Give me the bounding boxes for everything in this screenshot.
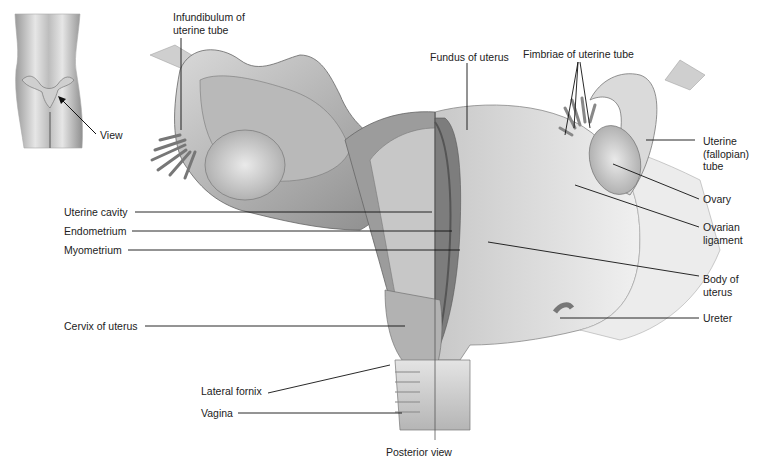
label-cervix: Cervix of uterus [64, 320, 138, 333]
inset-torso [15, 14, 83, 148]
label-myometrium: Myometrium [64, 244, 122, 257]
label-vagina: Vagina [201, 407, 233, 420]
label-ovarian-ligament: Ovarian ligament [703, 221, 743, 246]
figure-caption: Posterior view [386, 446, 452, 459]
label-body-of-uterus: Body of uterus [703, 273, 739, 298]
uterus-section [345, 112, 470, 440]
uterus-body [435, 60, 720, 360]
label-ovary: Ovary [703, 193, 731, 206]
label-fundus: Fundus of uterus [430, 51, 509, 64]
label-uterine-cavity: Uterine cavity [64, 206, 128, 219]
label-endometrium: Endometrium [64, 225, 126, 238]
label-fimbriae: Fimbriae of uterine tube [523, 48, 634, 61]
label-uterine-tube: Uterine (fallopian) tube [703, 135, 749, 173]
uterus-anatomy-diagram: View Infundibulum of uterine tube Fimbri… [0, 0, 761, 465]
label-ureter: Ureter [703, 312, 732, 325]
label-lateral-fornix: Lateral fornix [201, 385, 262, 398]
label-infundibulum: Infundibulum of uterine tube [173, 11, 245, 36]
inset-view-label: View [100, 129, 123, 142]
